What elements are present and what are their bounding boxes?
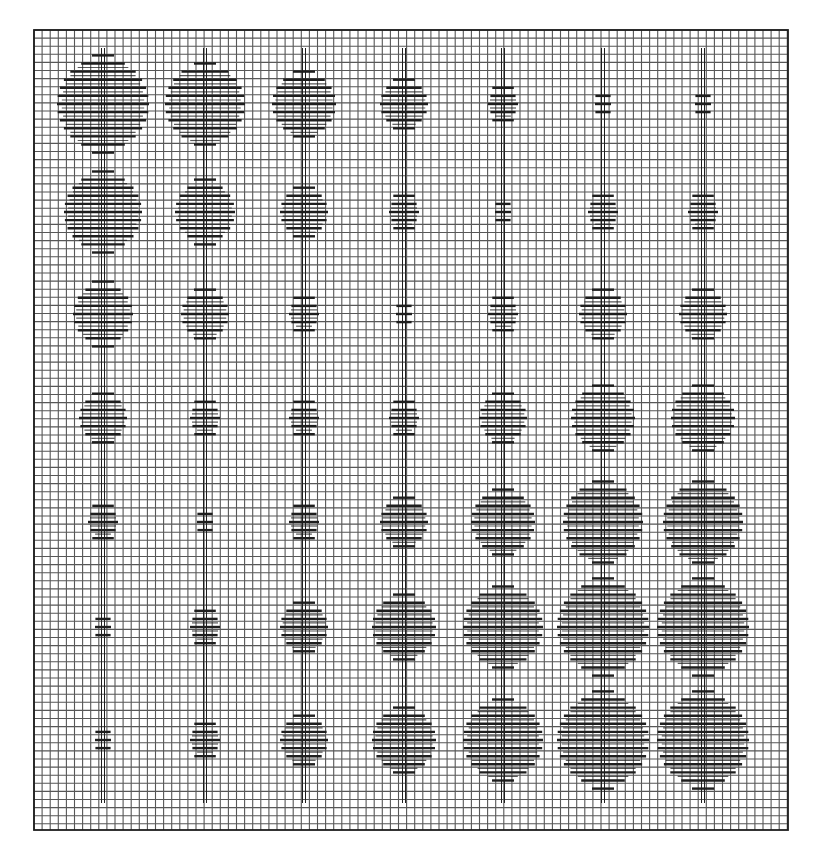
blob-r6-c3 <box>280 603 328 652</box>
blob-r2-c3 <box>280 188 328 237</box>
blob-r3-c2 <box>181 290 229 339</box>
blob-r1-c4 <box>380 80 428 129</box>
blob-r3-c7 <box>679 290 727 339</box>
blob-r7-c3 <box>280 716 328 765</box>
blob-r4-c5 <box>479 394 527 443</box>
bead-grid-diagram <box>0 0 824 849</box>
blob-r3-c6 <box>579 290 627 339</box>
blob-r4-c1 <box>79 394 127 443</box>
blob-r5-c4 <box>380 498 428 547</box>
